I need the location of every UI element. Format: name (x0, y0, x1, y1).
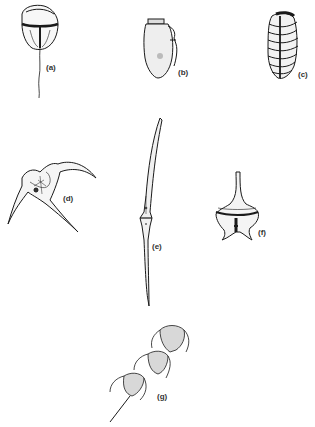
specimen-g-drawing (0, 0, 315, 427)
label-g: (g) (157, 392, 167, 401)
specimen-g: (g) (0, 0, 315, 427)
dinoflagellate-figure: (a) (b) (0, 0, 315, 427)
